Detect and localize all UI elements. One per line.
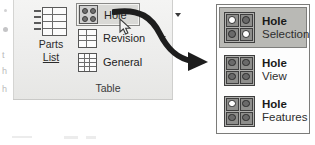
mouse-pointer-icon bbox=[119, 18, 132, 35]
gallery-item-title: Hole bbox=[262, 98, 307, 111]
general-table-icon bbox=[78, 53, 97, 72]
gallery-item-subtitle: Features bbox=[262, 111, 307, 124]
scan-artifact-1 bbox=[12, 136, 32, 138]
ribbon-group-label-text: Table bbox=[95, 82, 120, 94]
hole-matrix-icon bbox=[79, 5, 98, 24]
table-grid-icon bbox=[34, 7, 68, 37]
scan-artifact-3 bbox=[86, 136, 96, 139]
gallery-item-hole-features[interactable]: Hole Features bbox=[220, 92, 306, 130]
gallery-item-hole-view-text: Hole View bbox=[262, 57, 287, 83]
hole-features-icon bbox=[224, 96, 255, 127]
parts-list-label-line1: Parts bbox=[39, 38, 64, 50]
ribbon-table-item-list: Hole Revision General bbox=[76, 3, 170, 74]
hole-table-dropdown-gallery: Hole Selection Hole View Hole Features bbox=[216, 4, 310, 134]
hole-chevron-down-icon[interactable] bbox=[175, 13, 181, 17]
edge-fragment-2: h bbox=[2, 84, 7, 94]
ribbon-item-general-label: General bbox=[103, 56, 142, 68]
parts-list-label-line2: List bbox=[43, 51, 59, 63]
hole-view-icon bbox=[224, 55, 255, 86]
edge-artifact-dot-1 bbox=[4, 9, 7, 12]
ribbon-item-general[interactable]: General bbox=[76, 50, 170, 74]
gallery-item-title: Hole bbox=[262, 57, 287, 70]
ribbon-group-label: Table bbox=[13, 82, 173, 94]
gallery-item-hole-selection[interactable]: Hole Selection bbox=[219, 7, 307, 48]
gallery-item-hole-view[interactable]: Hole View bbox=[220, 51, 306, 89]
ribbon-bottom-border bbox=[13, 99, 173, 100]
edge-fragment-0: t bbox=[2, 50, 5, 60]
gallery-item-title: Hole bbox=[262, 15, 309, 28]
edge-artifact-dot-2 bbox=[3, 27, 8, 32]
gallery-item-subtitle: Selection bbox=[262, 28, 309, 41]
ribbon-table-group: Parts List Hole Revision bbox=[13, 0, 173, 100]
gallery-item-hole-features-text: Hole Features bbox=[262, 98, 307, 124]
gallery-item-hole-selection-text: Hole Selection bbox=[262, 15, 309, 41]
hole-selection-icon bbox=[224, 12, 255, 43]
clipped-edge-text: t h h bbox=[0, 0, 13, 100]
revision-table-icon bbox=[78, 29, 97, 48]
ribbon-button-parts-list[interactable]: Parts List bbox=[27, 4, 75, 80]
edge-fragment-1: h bbox=[2, 66, 7, 76]
parts-list-label: Parts List bbox=[39, 38, 64, 63]
scan-artifact-2 bbox=[64, 136, 78, 139]
gallery-item-subtitle: View bbox=[262, 70, 287, 83]
revision-chevron-down-icon[interactable] bbox=[160, 36, 166, 40]
